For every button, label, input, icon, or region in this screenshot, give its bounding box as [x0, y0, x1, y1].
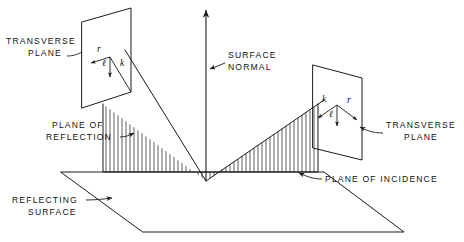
label-surface-normal: SURFACE NORMAL — [210, 50, 277, 72]
left-plane-vectors: r ℓ k — [91, 44, 131, 92]
plane-of-reflection-line2: REFLECTION — [46, 132, 112, 142]
plane-of-reflection-line1: PLANE OF — [52, 120, 104, 130]
transverse-plane-right-leader — [360, 127, 383, 133]
reflecting-surface-line1: REFLECTING — [12, 195, 78, 205]
vector-label-l-left: ℓ — [102, 58, 106, 68]
surface-normal-line1: SURFACE — [228, 50, 277, 60]
reflecting-surface-line2: SURFACE — [28, 207, 77, 217]
right-plane-vectors: k ℓ r — [318, 94, 357, 126]
transverse-plane-left-leader — [67, 52, 82, 56]
label-plane-of-reflection: PLANE OF REFLECTION — [46, 120, 134, 142]
vector-label-k-left: k — [120, 58, 125, 68]
transverse-plane-left-line1: TRANSVERSE — [6, 36, 76, 46]
diagram-canvas: r ℓ k k ℓ r TRANSVERSE PLANE SURFACE NOR… — [0, 0, 464, 242]
vector-label-r-left: r — [97, 44, 101, 54]
vector-label-k-right: k — [322, 94, 327, 104]
transverse-plane-right-line2: PLANE — [404, 132, 438, 142]
surface-normal-line2: NORMAL — [228, 62, 272, 72]
surface-normal-leader — [210, 63, 225, 69]
label-transverse-plane-left: TRANSVERSE PLANE — [6, 36, 82, 58]
label-transverse-plane-right: TRANSVERSE PLANE — [360, 120, 456, 142]
optics-reflection-diagram: r ℓ k k ℓ r TRANSVERSE PLANE SURFACE NOR… — [0, 0, 464, 242]
transverse-plane-right — [313, 65, 362, 160]
transverse-plane-right-line1: TRANSVERSE — [386, 120, 456, 130]
transverse-plane-left-line2: PLANE — [28, 48, 62, 58]
reflecting-surface-leader — [86, 198, 112, 200]
label-plane-of-incidence: PLANE OF INCIDENCE — [299, 173, 438, 184]
plane-of-incidence-text: PLANE OF INCIDENCE — [325, 174, 438, 184]
vector-r-left — [91, 57, 110, 63]
plane-of-reflection-region — [103, 95, 206, 185]
vector-label-r-right: r — [347, 95, 351, 105]
plane-of-reflection-outline — [103, 104, 206, 172]
plane-of-incidence-leader — [299, 173, 322, 179]
incident-ray — [125, 50, 206, 181]
vector-k-right — [318, 105, 337, 118]
vector-label-l-right: ℓ — [329, 109, 333, 119]
vector-r-right — [337, 105, 357, 120]
plane-of-incidence-region — [206, 95, 318, 185]
